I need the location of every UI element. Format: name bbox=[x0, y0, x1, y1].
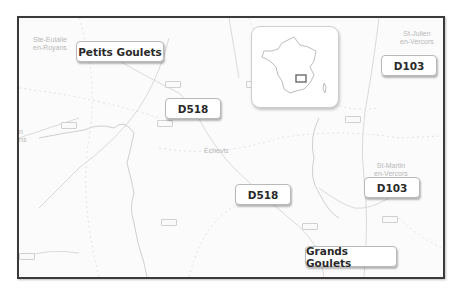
road-shield-marker bbox=[345, 116, 361, 123]
callout-d103-upper: D103 bbox=[381, 55, 437, 76]
callout-d518-lower: D518 bbox=[235, 184, 291, 205]
callout-petits-goulets: Petits Goulets bbox=[76, 41, 164, 62]
place-label-left-edge: n ns bbox=[19, 128, 26, 144]
place-label-echevis: Échevis bbox=[204, 147, 229, 155]
road-shield-marker bbox=[61, 122, 77, 129]
callout-grands-goulets: Grands Goulets bbox=[305, 246, 397, 267]
road-shield-marker bbox=[19, 253, 35, 260]
callout-d103-lower: D103 bbox=[364, 177, 420, 198]
road-shield-marker bbox=[161, 219, 177, 226]
road-shield-marker bbox=[382, 216, 398, 223]
france-locator-inset bbox=[251, 26, 339, 108]
study-area-marker bbox=[296, 75, 306, 82]
road-shield-marker bbox=[302, 223, 318, 230]
place-label-st-julien: St-Julien en-Vercors bbox=[400, 30, 434, 46]
road-shield-marker bbox=[157, 120, 173, 127]
road-shield-marker bbox=[165, 81, 181, 88]
france-outline-icon bbox=[252, 27, 338, 107]
place-label-ste-eulalie: Ste-Eulalie en-Royans bbox=[33, 36, 67, 52]
place-label-st-martin: St-Martin en-Vercors bbox=[374, 162, 408, 178]
callout-d518-upper: D518 bbox=[165, 98, 221, 119]
map-frame: Ste-Eulalie en-Royans St-Julien en-Verco… bbox=[17, 16, 445, 279]
